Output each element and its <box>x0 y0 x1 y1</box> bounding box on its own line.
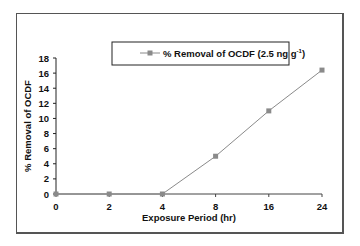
x-tick-label: 24 <box>317 201 328 212</box>
data-point-marker <box>213 154 218 159</box>
series-line <box>56 70 322 194</box>
y-tick-label: 6 <box>44 143 49 154</box>
y-tick-label: 16 <box>38 68 49 79</box>
y-tick-label: 14 <box>38 83 49 94</box>
legend-marker-icon <box>148 51 153 56</box>
y-tick-label: 10 <box>38 113 49 124</box>
legend: % Removal of OCDF (2.5 ng g-1) <box>112 42 305 65</box>
x-tick-label: 4 <box>160 201 166 212</box>
x-tick-label: 0 <box>53 201 58 212</box>
y-tick-label: 0 <box>44 189 49 200</box>
data-point-marker <box>160 192 165 197</box>
data-point-marker <box>54 192 59 197</box>
legend-label: % Removal of OCDF (2.5 ng g-1) <box>163 48 305 59</box>
y-axis-label: % Removal of OCDF <box>22 80 33 172</box>
y-tick-label: 12 <box>38 98 49 109</box>
y-tick-label: 2 <box>44 173 49 184</box>
line-chart: % Removal of OCDF (2.5 ng g-1) 024681012… <box>0 0 360 246</box>
axes: 02468101214161802481624 <box>38 53 328 213</box>
data-point-marker <box>266 108 271 113</box>
x-tick-label: 16 <box>264 201 275 212</box>
x-tick-label: 8 <box>213 201 218 212</box>
y-tick-label: 8 <box>44 128 49 139</box>
data-point-marker <box>107 192 112 197</box>
data-series <box>54 68 325 197</box>
y-tick-label: 4 <box>44 158 50 169</box>
data-point-marker <box>320 68 325 73</box>
y-tick-label: 18 <box>38 53 49 64</box>
x-tick-label: 2 <box>107 201 112 212</box>
x-axis-label: Exposure Period (hr) <box>142 212 236 223</box>
